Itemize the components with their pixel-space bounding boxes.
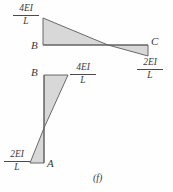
label-moment-b-bottom-numerator: 4EI xyxy=(70,63,96,73)
moment-lobe-ab-negative xyxy=(30,128,44,163)
label-moment-a-numerator: 2EI xyxy=(4,150,30,160)
bending-moment-figure: 4EI L B C 2EI L B 4EI L 2EI L A (f) xyxy=(0,0,173,192)
label-moment-b-top-numerator: 4EI xyxy=(13,4,39,14)
label-moment-b-top: 4EI L xyxy=(13,4,39,27)
label-moment-a: 2EI L xyxy=(4,150,30,173)
node-label-b-bottom: B xyxy=(31,67,38,78)
node-label-c: C xyxy=(151,36,158,47)
figure-caption: (f) xyxy=(93,172,102,183)
label-moment-b-bottom-denominator: L xyxy=(70,75,96,85)
moment-diagram-bc xyxy=(43,18,148,56)
label-moment-b-bottom: 4EI L xyxy=(70,63,96,86)
label-moment-c: 2EI L xyxy=(137,58,163,81)
moment-lobe-bc-negative xyxy=(108,45,148,56)
label-moment-c-denominator: L xyxy=(137,70,163,80)
moment-diagram-ab xyxy=(30,75,68,163)
moment-lobe-bc-positive xyxy=(43,18,108,45)
label-moment-c-numerator: 2EI xyxy=(137,58,163,68)
label-moment-b-top-denominator: L xyxy=(13,16,39,26)
node-label-a: A xyxy=(47,158,54,169)
label-moment-a-denominator: L xyxy=(4,162,30,172)
moment-lobe-ab-positive xyxy=(44,75,68,128)
node-label-b-top: B xyxy=(31,40,38,51)
